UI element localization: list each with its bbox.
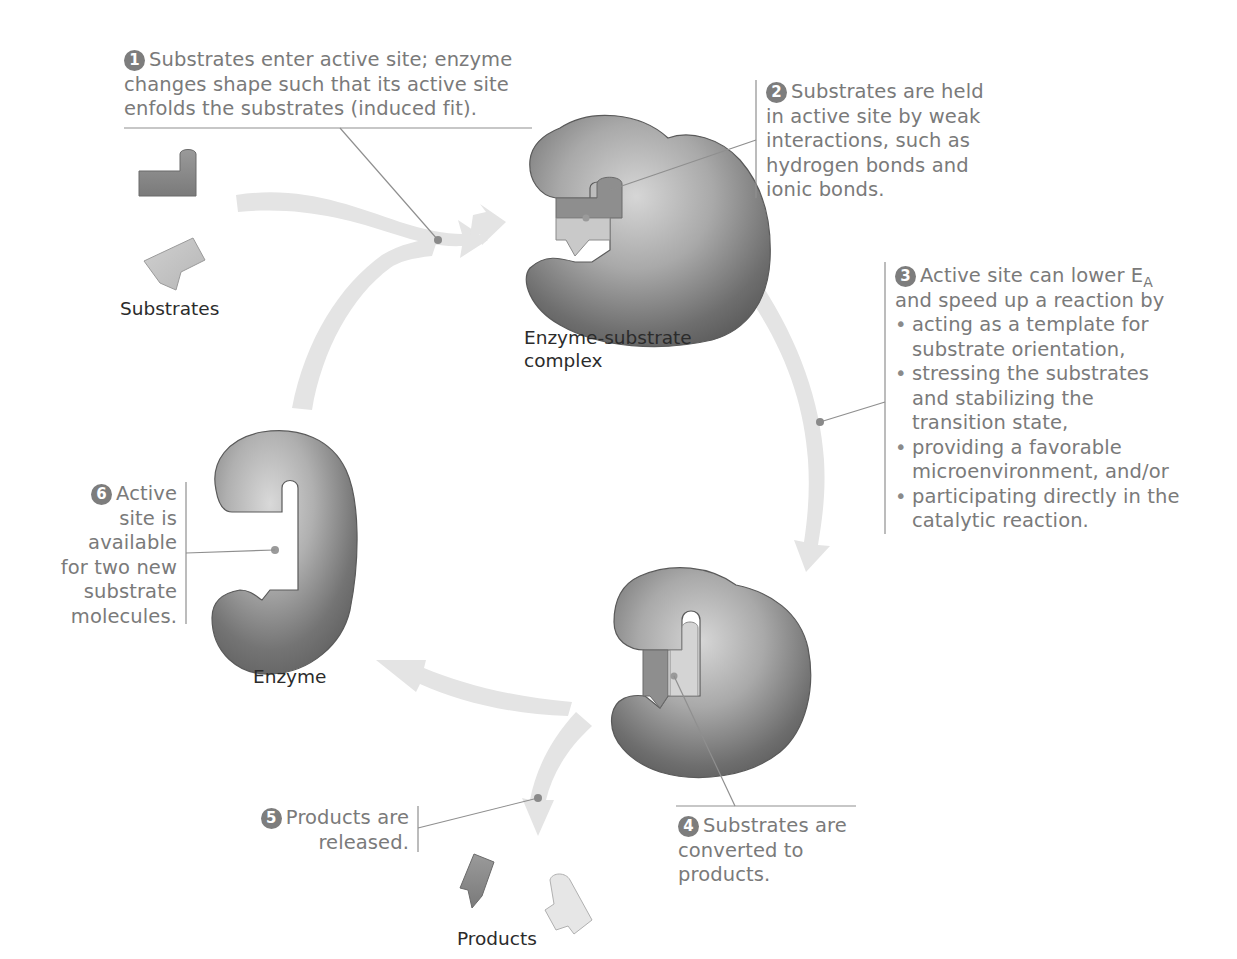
arrow-back-to-enzyme bbox=[376, 660, 572, 716]
arrow-complex-to-conversion bbox=[744, 282, 830, 572]
bullet-icon: • bbox=[895, 485, 912, 510]
step-5-callout: 5Products are released. bbox=[261, 806, 409, 855]
bullet-icon: • bbox=[895, 313, 912, 338]
step-1-line-2: changes shape such that its active site bbox=[124, 73, 512, 98]
step-3-bullet-1-cont: substrate orientation, bbox=[895, 338, 1180, 363]
step-6-line-3: available bbox=[61, 531, 177, 556]
step-2-line-5: ionic bonds. bbox=[766, 178, 984, 203]
step-3-bullet-4: •participating directly in the bbox=[895, 485, 1180, 510]
step-3-bullet-2-cont-1: and stabilizing the bbox=[895, 387, 1180, 412]
step-3-bullet-1: •acting as a template for bbox=[895, 313, 1180, 338]
product-light-shape bbox=[545, 874, 592, 934]
step-3-bullet-3-cont: microenvironment, and/or bbox=[895, 460, 1180, 485]
step-2-line-2: in active site by weak bbox=[766, 105, 984, 130]
complex-label-line-2: complex bbox=[524, 349, 692, 372]
step-3-bullet-2-cont-2: transition state, bbox=[895, 411, 1180, 436]
step-3-bullet-4-cont: catalytic reaction. bbox=[895, 509, 1180, 534]
step-6-badge: 6 bbox=[91, 484, 112, 505]
products-label: Products bbox=[457, 927, 537, 950]
arrow-substrates-in bbox=[236, 192, 488, 258]
product-molecules bbox=[460, 854, 592, 934]
step-6-line-4: for two new bbox=[61, 556, 177, 581]
step-1-line-3: enfolds the substrates (induced fit). bbox=[124, 97, 512, 122]
step-4-line-1: 4Substrates are bbox=[678, 814, 847, 839]
step-1-line-1: 1Substrates enter active site; enzyme bbox=[124, 48, 512, 73]
step-1-badge: 1 bbox=[124, 50, 145, 71]
step-6-callout: 6Active site is available for two new su… bbox=[61, 482, 177, 629]
step-3-callout: 3Active site can lower EA and speed up a… bbox=[895, 264, 1180, 534]
enzyme-shape bbox=[212, 431, 357, 674]
enzyme-substrate-complex-shape bbox=[526, 115, 770, 346]
step-3-intro-line-1: 3Active site can lower EA bbox=[895, 264, 1180, 289]
step-5-badge: 5 bbox=[261, 808, 282, 829]
enzyme-products-complex-shape bbox=[612, 568, 811, 778]
step-3-badge: 3 bbox=[895, 266, 916, 287]
activation-energy-subscript: A bbox=[1143, 274, 1153, 290]
substrate-dark-shape bbox=[139, 150, 196, 197]
step-5-line-1: 5Products are bbox=[261, 806, 409, 831]
step-6-line-6: molecules. bbox=[61, 605, 177, 630]
bullet-icon: • bbox=[895, 362, 912, 387]
substrates-label: Substrates bbox=[120, 297, 219, 320]
step-2-badge: 2 bbox=[766, 82, 787, 103]
enzyme-substrate-complex-label: Enzyme-substrate complex bbox=[524, 326, 692, 372]
substrate-molecules bbox=[139, 150, 205, 291]
step-2-line-3: interactions, such as bbox=[766, 129, 984, 154]
arrow-products-released bbox=[522, 712, 592, 836]
step-4-badge: 4 bbox=[678, 816, 699, 837]
bullet-icon: • bbox=[895, 436, 912, 461]
step-6-line-2: site is bbox=[61, 507, 177, 532]
complex-label-line-1: Enzyme-substrate bbox=[524, 326, 692, 349]
step-3-intro-line-2: and speed up a reaction by bbox=[895, 289, 1180, 314]
step-1-callout: 1Substrates enter active site; enzyme ch… bbox=[124, 48, 512, 122]
step-3-bullet-2: •stressing the substrates bbox=[895, 362, 1180, 387]
step-3-bullet-3: •providing a favorable bbox=[895, 436, 1180, 461]
step-2-line-4: hydrogen bonds and bbox=[766, 154, 984, 179]
enzyme-label: Enzyme bbox=[253, 665, 326, 688]
enzyme-cycle-diagram: 1Substrates enter active site; enzyme ch… bbox=[0, 0, 1237, 959]
step-4-callout: 4Substrates are converted to products. bbox=[678, 814, 847, 888]
step-2-callout: 2Substrates are held in active site by w… bbox=[766, 80, 984, 203]
substrate-light-shape bbox=[144, 238, 205, 290]
step-6-line-1: 6Active bbox=[61, 482, 177, 507]
step-4-line-2: converted to bbox=[678, 839, 847, 864]
step-6-line-5: substrate bbox=[61, 580, 177, 605]
step-5-line-2: released. bbox=[261, 831, 409, 856]
step-4-line-3: products. bbox=[678, 863, 847, 888]
product-dark-shape bbox=[460, 854, 494, 908]
arrow-enzyme-to-complex bbox=[292, 238, 438, 410]
step-2-line-1: 2Substrates are held bbox=[766, 80, 984, 105]
